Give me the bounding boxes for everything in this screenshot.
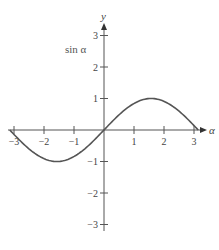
sine-chart: −3−2−1123−3−2−1123 α y sin α	[0, 0, 219, 250]
y-tick-label: 3	[93, 30, 98, 41]
y-tick-label: −1	[87, 156, 98, 167]
y-tick-label: 1	[93, 93, 98, 104]
function-label: sin α	[65, 43, 87, 55]
x-tick-label: 3	[192, 136, 197, 147]
y-tick-label: 2	[93, 62, 98, 73]
y-tick-label: −3	[87, 219, 98, 230]
x-tick-label: 1	[132, 136, 137, 147]
y-axis-arrow-icon	[101, 23, 107, 30]
x-tick-label: 2	[162, 136, 167, 147]
y-axis-label: y	[100, 10, 106, 22]
x-axis-label: α	[209, 124, 215, 136]
x-axis-arrow-icon	[200, 127, 207, 133]
y-tick-label: −2	[87, 188, 98, 199]
x-tick-label: −2	[39, 136, 50, 147]
x-tick-label: −1	[69, 136, 80, 147]
